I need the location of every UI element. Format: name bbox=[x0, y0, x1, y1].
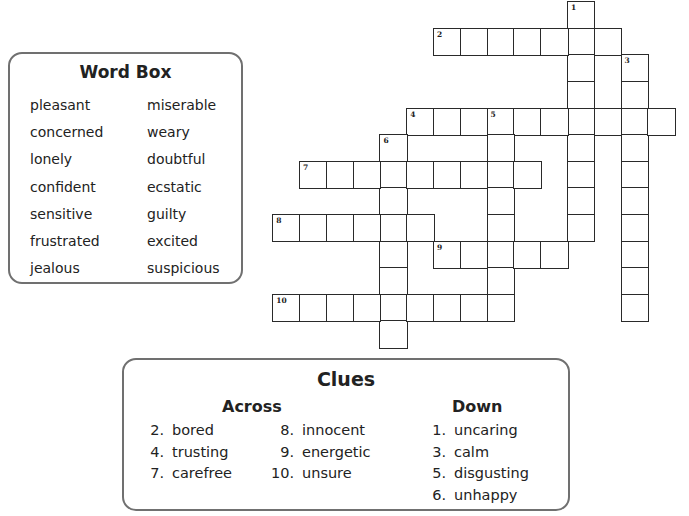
cell-number: 3 bbox=[625, 56, 630, 65]
crossword-cell[interactable] bbox=[540, 108, 568, 136]
crossword-cell[interactable] bbox=[567, 28, 595, 56]
crossword-cell[interactable] bbox=[326, 214, 354, 242]
down-clues: 1.uncaring 3.calm 5.disgusting 6.unhappy bbox=[430, 420, 529, 506]
crossword-cell[interactable] bbox=[513, 241, 541, 269]
crossword-cell[interactable] bbox=[326, 294, 354, 322]
crossword-cell[interactable]: 6 bbox=[379, 134, 407, 162]
crossword-cell[interactable] bbox=[487, 161, 515, 189]
crossword-cell[interactable] bbox=[621, 161, 649, 189]
word-item: sensitive bbox=[30, 201, 103, 228]
crossword-cell[interactable] bbox=[621, 214, 649, 242]
crossword-cell[interactable] bbox=[594, 108, 622, 136]
crossword-cell[interactable] bbox=[567, 134, 595, 162]
crossword-cell[interactable] bbox=[460, 28, 488, 56]
clue-item: 2.bored bbox=[148, 420, 232, 442]
clue-item: 5.disgusting bbox=[430, 463, 529, 485]
crossword-cell[interactable] bbox=[379, 267, 407, 295]
crossword-cell[interactable] bbox=[433, 294, 461, 322]
clue-text: uncaring bbox=[454, 422, 518, 438]
crossword-cell[interactable]: 5 bbox=[487, 108, 515, 136]
crossword-cell[interactable]: 2 bbox=[433, 28, 461, 56]
crossword-cell[interactable] bbox=[379, 241, 407, 269]
crossword-cell[interactable]: 4 bbox=[406, 108, 434, 136]
crossword-cell[interactable]: 9 bbox=[433, 241, 461, 269]
word-box-title: Word Box bbox=[10, 62, 241, 82]
word-item: doubtful bbox=[147, 146, 220, 173]
crossword-cell[interactable] bbox=[513, 28, 541, 56]
crossword-cell[interactable] bbox=[647, 108, 675, 136]
crossword-cell[interactable] bbox=[621, 187, 649, 215]
crossword-cell[interactable] bbox=[621, 81, 649, 109]
crossword-cell[interactable] bbox=[433, 108, 461, 136]
clue-text: trusting bbox=[172, 444, 229, 460]
across-clues-col-2: 8.innocent 9.energetic 10.unsure bbox=[270, 420, 371, 485]
crossword-cell[interactable] bbox=[621, 134, 649, 162]
crossword-cell[interactable] bbox=[621, 241, 649, 269]
crossword-cell[interactable] bbox=[567, 54, 595, 82]
crossword-cell[interactable] bbox=[621, 267, 649, 295]
crossword-cell[interactable] bbox=[487, 294, 515, 322]
crossword-cell[interactable] bbox=[406, 161, 434, 189]
clue-text: unhappy bbox=[454, 487, 517, 503]
word-box: Word Box pleasant concerned lonely confi… bbox=[8, 52, 243, 284]
crossword-cell[interactable]: 1 bbox=[567, 1, 595, 29]
crossword-cell[interactable] bbox=[379, 294, 407, 322]
crossword-cell[interactable] bbox=[567, 161, 595, 189]
clue-number: 8. bbox=[270, 420, 294, 442]
crossword-cell[interactable] bbox=[513, 161, 541, 189]
crossword-cell[interactable] bbox=[379, 320, 407, 348]
crossword-cell[interactable] bbox=[460, 161, 488, 189]
crossword-cell[interactable] bbox=[299, 294, 327, 322]
crossword-cell[interactable] bbox=[353, 294, 381, 322]
crossword-cell[interactable] bbox=[540, 28, 568, 56]
crossword-cell[interactable] bbox=[621, 108, 649, 136]
crossword-cell[interactable] bbox=[353, 161, 381, 189]
crossword-cell[interactable] bbox=[487, 28, 515, 56]
word-item: confident bbox=[30, 174, 103, 201]
crossword-cell[interactable] bbox=[299, 214, 327, 242]
clue-number: 6. bbox=[430, 485, 446, 507]
crossword-cell[interactable] bbox=[433, 161, 461, 189]
clue-item: 1.uncaring bbox=[430, 420, 529, 442]
crossword-cell[interactable] bbox=[326, 161, 354, 189]
crossword-cell[interactable]: 8 bbox=[272, 214, 300, 242]
clue-number: 9. bbox=[270, 442, 294, 464]
crossword-cell[interactable] bbox=[353, 214, 381, 242]
crossword-cell[interactable] bbox=[406, 214, 434, 242]
crossword-cell[interactable] bbox=[487, 187, 515, 215]
crossword-cell[interactable] bbox=[460, 241, 488, 269]
clue-text: unsure bbox=[302, 465, 352, 481]
clue-number: 1. bbox=[430, 420, 446, 442]
word-item: concerned bbox=[30, 119, 103, 146]
crossword-cell[interactable] bbox=[487, 134, 515, 162]
crossword-cell[interactable] bbox=[379, 161, 407, 189]
crossword-cell[interactable] bbox=[460, 108, 488, 136]
crossword-cell[interactable]: 10 bbox=[272, 294, 300, 322]
word-item: frustrated bbox=[30, 228, 103, 255]
crossword-cell[interactable] bbox=[487, 267, 515, 295]
crossword-cell[interactable] bbox=[567, 187, 595, 215]
word-item: excited bbox=[147, 228, 220, 255]
clue-text: bored bbox=[172, 422, 214, 438]
clue-number: 5. bbox=[430, 463, 446, 485]
crossword-cell[interactable] bbox=[487, 241, 515, 269]
crossword-cell[interactable] bbox=[379, 187, 407, 215]
across-heading: Across bbox=[222, 397, 282, 416]
clue-number: 4. bbox=[148, 442, 164, 464]
crossword-cell[interactable] bbox=[379, 214, 407, 242]
crossword-cell[interactable] bbox=[567, 81, 595, 109]
crossword-cell[interactable]: 7 bbox=[299, 161, 327, 189]
crossword-cell[interactable] bbox=[621, 294, 649, 322]
down-heading: Down bbox=[452, 397, 502, 416]
crossword-cell[interactable] bbox=[540, 241, 568, 269]
crossword-cell[interactable] bbox=[513, 108, 541, 136]
crossword-cell[interactable] bbox=[567, 108, 595, 136]
crossword-cell[interactable]: 3 bbox=[621, 54, 649, 82]
crossword-cell[interactable] bbox=[594, 28, 622, 56]
crossword-cell[interactable] bbox=[567, 214, 595, 242]
crossword-cell[interactable] bbox=[406, 294, 434, 322]
clue-text: carefree bbox=[172, 465, 232, 481]
crossword-cell[interactable] bbox=[487, 214, 515, 242]
crossword-cell[interactable] bbox=[460, 294, 488, 322]
cell-number: 1 bbox=[571, 3, 576, 12]
